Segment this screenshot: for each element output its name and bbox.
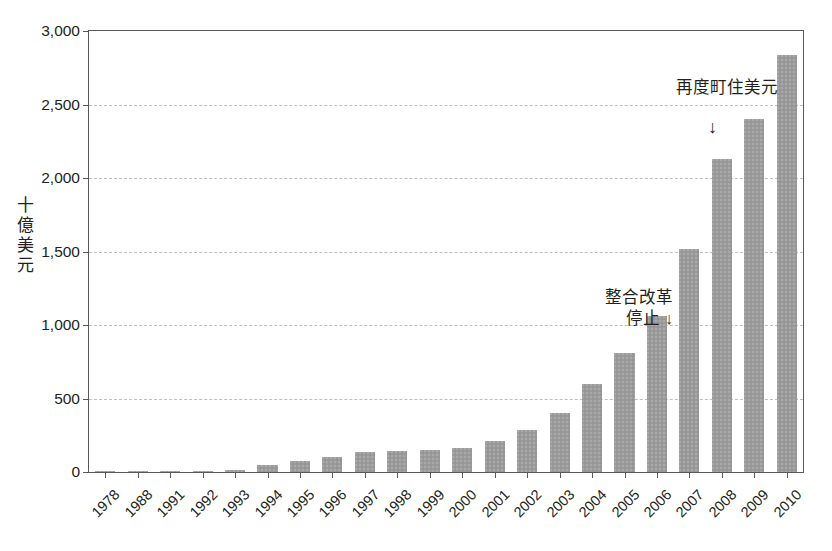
y-axis-tick-label: 1,000: [24, 317, 80, 333]
x-axis-tick-label: 2003: [535, 487, 577, 529]
x-axis-tick-label: 2000: [438, 487, 480, 529]
y-axis-tick-label: 0: [24, 464, 80, 480]
bar[interactable]: [485, 441, 505, 472]
annotation-reform-halt: 整合改革 停止 ↓: [565, 287, 673, 329]
bar[interactable]: [679, 249, 699, 472]
bar[interactable]: [387, 451, 407, 472]
y-axis-tick-mark: [83, 31, 89, 32]
x-axis-tick-label: 2007: [665, 487, 707, 529]
x-axis-tick-label: 2008: [698, 487, 740, 529]
bar[interactable]: [290, 461, 310, 472]
x-axis-tick-label: 1997: [341, 487, 383, 529]
bar[interactable]: [712, 159, 732, 472]
y-axis-tick-labels: 3,0002,5002,0001,5001,0005000: [22, 0, 80, 551]
x-axis-tick-label: 2001: [471, 487, 513, 529]
annotation-housing-arrow-icon: ↓: [708, 118, 717, 136]
x-axis-tick-label: 1999: [406, 487, 448, 529]
x-axis-tick-label: 1988: [114, 487, 156, 529]
bar[interactable]: [257, 465, 277, 472]
bar[interactable]: [355, 452, 375, 472]
gridline: [89, 178, 803, 179]
x-axis-tick-label: 1992: [178, 487, 220, 529]
x-axis-tick-label: 1996: [308, 487, 350, 529]
x-axis-tick-labels: 1978198819911992199319941995199619971998…: [88, 473, 804, 551]
bar[interactable]: [582, 384, 602, 472]
x-axis-tick-label: 1978: [81, 487, 123, 529]
y-axis-tick-mark: [83, 178, 89, 179]
y-axis-tick-label: 2,500: [24, 97, 80, 113]
x-axis-tick-label: 2005: [600, 487, 642, 529]
x-axis-tick-label: 2002: [503, 487, 545, 529]
bar[interactable]: [420, 450, 440, 472]
y-axis-tick-mark: [83, 105, 89, 106]
bar[interactable]: [322, 457, 342, 472]
bar[interactable]: [744, 119, 764, 472]
x-axis-tick-label: 1991: [146, 487, 188, 529]
y-axis-tick-mark: [83, 399, 89, 400]
x-axis-tick-label: 1994: [243, 487, 285, 529]
bar[interactable]: [452, 448, 472, 472]
y-axis-tick-mark: [83, 325, 89, 326]
bar[interactable]: [550, 413, 570, 472]
gridline: [89, 105, 803, 106]
x-axis-tick-label: 2010: [763, 487, 805, 529]
bar[interactable]: [614, 353, 634, 472]
bar[interactable]: [517, 430, 537, 472]
bar[interactable]: [777, 55, 797, 472]
x-axis-tick-label: 1998: [373, 487, 415, 529]
y-axis-tick-label: 2,000: [24, 170, 80, 186]
y-axis-tick-label: 500: [24, 391, 80, 407]
y-axis-tick-label: 3,000: [24, 23, 80, 39]
y-axis-tick-mark: [83, 252, 89, 253]
annotation-housing-again: 再度町住美元: [676, 77, 826, 98]
bar-chart: 十 億 美 元 3,0002,5002,0001,5001,0005000 19…: [0, 0, 832, 551]
y-axis-tick-label: 1,500: [24, 244, 80, 260]
x-axis-tick-label: 2009: [730, 487, 772, 529]
bar[interactable]: [647, 316, 667, 472]
